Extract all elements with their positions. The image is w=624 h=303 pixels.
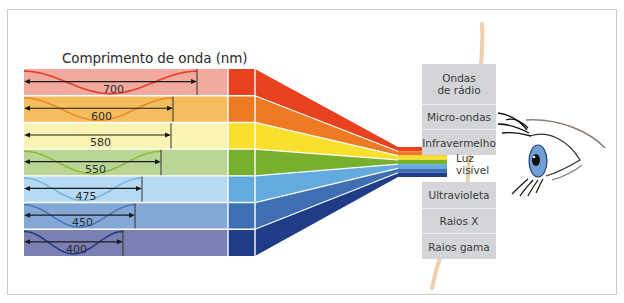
- eye-pupil-icon: [532, 154, 540, 166]
- wavelength-value: 700: [103, 83, 124, 96]
- visible-light-label: Luz visível: [456, 152, 489, 176]
- visible-bar-550: [398, 160, 447, 164]
- visible-bar-450: [398, 168, 447, 172]
- band-wavelength-580: [24, 122, 228, 149]
- visible-light-line2: visível: [456, 164, 489, 176]
- wavelength-value: 580: [90, 136, 111, 149]
- diagram-title: Comprimento de onda (nm): [62, 50, 248, 66]
- box-gamma-rays: Raios gama: [422, 233, 496, 259]
- band-color-swatch-450: [228, 203, 255, 230]
- band-wavelength-400: [24, 229, 228, 256]
- box-radio-waves: Ondas de rádio: [422, 64, 496, 104]
- visible-light-line1: Luz: [456, 152, 489, 164]
- band-color-swatch-400: [228, 229, 255, 256]
- band-color-swatch-580: [228, 122, 255, 149]
- box-ultraviolet: Ultravioleta: [422, 182, 496, 208]
- band-color-swatch-600: [228, 96, 255, 123]
- visible-bar-400: [398, 173, 447, 177]
- eyelash-bottom-icon: [528, 180, 538, 196]
- band-color-swatch-550: [228, 149, 255, 176]
- ultraviolet-label: Ultravioleta: [429, 189, 490, 201]
- eyelash-bottom-icon: [520, 180, 533, 196]
- gamma-rays-label: Raios gama: [428, 241, 489, 253]
- xrays-label: Raios X: [440, 215, 479, 227]
- eyelash-top-icon: [498, 113, 527, 130]
- microwaves-label: Micro-ondas: [427, 111, 491, 123]
- eye-highlight-icon: [533, 156, 536, 159]
- band-color-swatch-700: [228, 69, 255, 96]
- visible-bar-580: [398, 156, 447, 160]
- spectrum-graphic: [0, 0, 624, 303]
- wavelength-value: 550: [85, 163, 106, 176]
- wavelength-value: 400: [66, 243, 87, 256]
- infrared-label: Infravermelho: [422, 137, 496, 149]
- box-xrays: Raios X: [422, 208, 496, 233]
- eyelash-top-icon: [502, 133, 531, 136]
- visible-bar-475: [398, 164, 447, 168]
- wavelength-value: 450: [72, 216, 93, 229]
- band-wavelength-600: [24, 96, 228, 123]
- box-microwaves: Micro-ondas: [422, 104, 496, 129]
- eyelash-bottom-icon: [512, 179, 528, 194]
- band-color-swatch-475: [228, 176, 255, 203]
- wavelength-value: 600: [91, 110, 112, 123]
- wavelength-value: 475: [76, 190, 97, 203]
- radio-waves-label: Ondas de rádio: [437, 72, 481, 96]
